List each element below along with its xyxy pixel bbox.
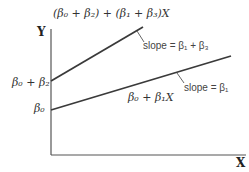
y-axis-label: Y	[37, 26, 46, 38]
upper-regression-line	[51, 27, 143, 81]
x-axis-label: X	[236, 157, 245, 169]
upper-line-equation: (β₀ + β₂) + (β₁ + β₃)X	[53, 8, 170, 19]
lower-intercept-label: β₀	[34, 103, 45, 114]
upper-intercept-label: β₀ + β₂	[12, 77, 50, 88]
upper-slope-label: slope = β₁ + β₃	[143, 41, 209, 51]
lower-slope-label: slope = β₁	[184, 83, 228, 93]
lower-slope-pointer	[177, 73, 184, 83]
lower-line-equation: β₀ + β₁X	[128, 92, 174, 103]
